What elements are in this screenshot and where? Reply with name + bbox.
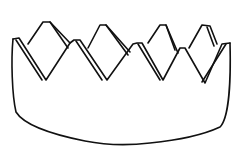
crown-band xyxy=(12,39,230,145)
crown-illustration xyxy=(0,0,234,156)
crown-icon xyxy=(0,0,234,156)
